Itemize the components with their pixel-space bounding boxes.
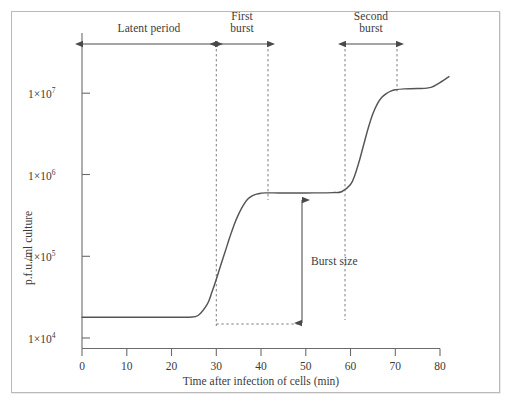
latent-period-label: Latent period — [118, 22, 181, 34]
x-tick-label-80: 80 — [434, 360, 446, 372]
second-burst-label-line2: burst — [354, 22, 388, 34]
x-axis-title: Time after infection of cells (min) — [183, 375, 339, 387]
x-tick-label-50: 50 — [300, 360, 312, 372]
first-burst-label-line2: burst — [230, 22, 254, 34]
growth-curve — [82, 77, 449, 318]
y-axis-title: p.f.u./ml culture — [22, 211, 34, 285]
x-tick-label-30: 30 — [211, 360, 223, 372]
first-burst-label-line1: First — [230, 10, 254, 22]
first-burst-label: First burst — [230, 10, 254, 34]
figure-container: 1×107 1×106 1×105 1×104 p.f.u./ml cultur… — [0, 0, 516, 411]
x-tick-label-0: 0 — [79, 360, 85, 372]
axes — [82, 33, 440, 356]
x-tick-label-10: 10 — [121, 360, 133, 372]
x-axis-ticks — [82, 349, 440, 357]
y-tick-label-1e7: 1×107 — [28, 86, 56, 100]
y-tick-label-1e6: 1×106 — [28, 168, 56, 182]
x-tick-label-20: 20 — [166, 360, 178, 372]
x-tick-label-60: 60 — [345, 360, 357, 372]
y-tick-label-1e4: 1×104 — [28, 331, 56, 345]
y-axis-ticks — [82, 93, 90, 338]
annotation-arrows — [83, 44, 396, 323]
guide-lines — [216, 44, 397, 326]
x-tick-label-70: 70 — [390, 360, 402, 372]
plot-canvas — [0, 0, 516, 411]
burst-size-label: Burst size — [311, 255, 358, 267]
second-burst-label-line1: Second — [354, 10, 388, 22]
second-burst-label: Second burst — [354, 10, 388, 34]
x-tick-label-40: 40 — [255, 360, 267, 372]
